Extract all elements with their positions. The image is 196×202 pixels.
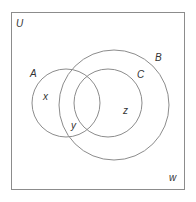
set-b-circle	[59, 50, 169, 160]
element-x-label: x	[42, 91, 49, 102]
element-y-label: y	[70, 120, 77, 131]
universe-rect	[12, 13, 185, 190]
element-w-label: w	[169, 172, 177, 183]
set-c-circle	[74, 69, 142, 137]
venn-diagram: U A B C x y z w	[0, 0, 196, 202]
set-c-label: C	[137, 69, 145, 80]
set-a-label: A	[29, 68, 37, 79]
set-a-circle	[32, 69, 100, 137]
element-z-label: z	[122, 105, 128, 116]
universe-label: U	[16, 18, 24, 29]
set-b-label: B	[155, 52, 162, 63]
